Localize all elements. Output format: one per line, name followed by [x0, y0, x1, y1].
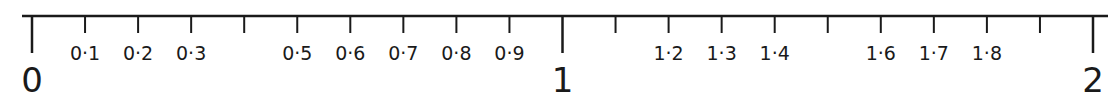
minor-tick-label: 0·5 — [282, 42, 312, 64]
minor-tick-label: 1·3 — [707, 42, 737, 64]
minor-tick-label: 0·2 — [123, 42, 153, 64]
minor-tick-label: 0·9 — [494, 42, 524, 64]
minor-tick-label: 1·2 — [653, 42, 683, 64]
minor-tick-label: 0·8 — [441, 42, 471, 64]
minor-tick-label: 1·6 — [866, 42, 896, 64]
minor-tick-label: 0·1 — [70, 42, 100, 64]
minor-tick-label: 0·7 — [388, 42, 418, 64]
minor-tick-label: 1·4 — [760, 42, 790, 64]
major-tick-label: 0 — [21, 60, 43, 100]
minor-tick-label: 0·6 — [335, 42, 365, 64]
major-tick-label: 2 — [1082, 60, 1104, 100]
number-line: 0·10·20·30·50·60·70·80·91·21·31·41·61·71… — [0, 0, 1117, 109]
minor-tick-label: 0·3 — [176, 42, 206, 64]
minor-tick-label: 1·8 — [972, 42, 1002, 64]
minor-tick-label: 1·7 — [919, 42, 949, 64]
major-tick-label: 1 — [552, 60, 574, 100]
